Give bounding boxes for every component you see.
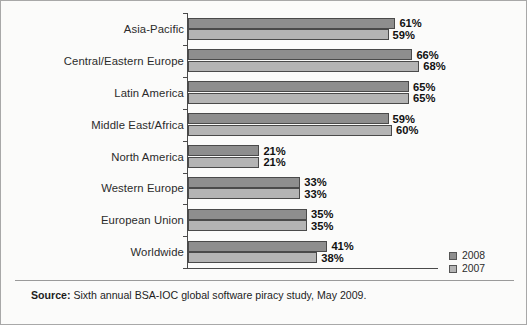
source-label: Source: xyxy=(31,289,70,301)
bar-row: 65% xyxy=(188,93,435,104)
category-label: Latin America xyxy=(27,87,184,99)
bar-row: 33% xyxy=(188,177,327,188)
bar-group: Latin America65%65% xyxy=(27,77,497,109)
bars-container: 65%65% xyxy=(188,77,497,109)
bar xyxy=(188,220,307,231)
bar-value-label: 59% xyxy=(393,113,415,125)
bar-value-label: 38% xyxy=(321,252,343,264)
x-axis-baseline xyxy=(187,268,438,269)
bar-value-label: 35% xyxy=(311,220,333,232)
bar-value-label: 65% xyxy=(413,81,435,93)
bar xyxy=(188,125,392,136)
legend-label: 2007 xyxy=(462,263,485,274)
bar-row: 35% xyxy=(188,209,333,220)
bar-group: European Union35%35% xyxy=(27,204,497,236)
bar xyxy=(188,81,409,92)
bar-value-label: 21% xyxy=(263,145,285,157)
bar-group: Worldwide41%38% xyxy=(27,236,497,268)
bar xyxy=(188,188,300,199)
legend-label: 2008 xyxy=(462,250,485,261)
bar-value-label: 35% xyxy=(311,208,333,220)
bar-row: 60% xyxy=(188,125,418,136)
bar xyxy=(188,49,412,60)
bar-value-label: 66% xyxy=(416,49,438,61)
bar-value-label: 68% xyxy=(423,60,445,72)
bar-value-label: 21% xyxy=(263,156,285,168)
bar-row: 65% xyxy=(188,81,435,92)
category-label: Central/Eastern Europe xyxy=(27,55,184,67)
bar-row: 21% xyxy=(188,145,286,156)
bar-row: 59% xyxy=(188,29,415,40)
category-label: European Union xyxy=(27,214,184,226)
bar-groups: Asia-Pacific61%59%Central/Eastern Europe… xyxy=(27,13,497,268)
bar-row: 61% xyxy=(188,18,422,29)
legend-swatch xyxy=(449,252,457,260)
bars-container: 21%21% xyxy=(188,141,497,173)
bar xyxy=(188,157,259,168)
bar-value-label: 33% xyxy=(304,188,326,200)
bar-value-label: 65% xyxy=(413,92,435,104)
bar-row: 68% xyxy=(188,61,446,72)
category-label: Asia-Pacific xyxy=(27,23,184,35)
bars-container: 61%59% xyxy=(188,13,497,45)
bar xyxy=(188,177,300,188)
plot-area: Asia-Pacific61%59%Central/Eastern Europe… xyxy=(27,13,497,271)
bar-row: 66% xyxy=(188,49,439,60)
bar-group: Western Europe33%33% xyxy=(27,172,497,204)
bar-group: Central/Eastern Europe66%68% xyxy=(27,45,497,77)
bar-row: 59% xyxy=(188,113,415,124)
bar-value-label: 61% xyxy=(399,17,421,29)
chart-legend: 20082007 xyxy=(449,249,485,275)
category-label: North America xyxy=(27,150,184,162)
bar-group: North America21%21% xyxy=(27,141,497,173)
bar xyxy=(188,93,409,104)
bar xyxy=(188,241,327,252)
category-label: Western Europe xyxy=(27,182,184,194)
legend-item: 2008 xyxy=(449,249,485,262)
bar xyxy=(188,252,317,263)
source-note: Source: Sixth annual BSA-IOC global soft… xyxy=(31,289,366,301)
bar-value-label: 33% xyxy=(304,176,326,188)
bar-row: 38% xyxy=(188,252,344,263)
bar-group: Middle East/Africa59%60% xyxy=(27,109,497,141)
bar xyxy=(188,145,259,156)
bar xyxy=(188,209,307,220)
category-label: Worldwide xyxy=(27,246,184,258)
bar xyxy=(188,18,395,29)
legend-swatch xyxy=(449,265,457,273)
source-text: Sixth annual BSA-IOC global software pir… xyxy=(70,289,366,301)
bar xyxy=(188,29,389,40)
legend-item: 2007 xyxy=(449,262,485,275)
bar-value-label: 59% xyxy=(393,29,415,41)
bar-row: 33% xyxy=(188,188,327,199)
bar-group: Asia-Pacific61%59% xyxy=(27,13,497,45)
category-label: Middle East/Africa xyxy=(27,118,184,130)
bars-container: 59%60% xyxy=(188,109,497,141)
bar-row: 21% xyxy=(188,157,286,168)
bars-container: 35%35% xyxy=(188,204,497,236)
bar-row: 35% xyxy=(188,220,333,231)
bars-container: 66%68% xyxy=(188,45,497,77)
bar-row: 41% xyxy=(188,241,354,252)
chart-figure: Asia-Pacific61%59%Central/Eastern Europe… xyxy=(0,0,527,325)
bar-value-label: 41% xyxy=(331,240,353,252)
bar xyxy=(188,113,389,124)
bars-container: 33%33% xyxy=(188,172,497,204)
bar xyxy=(188,61,419,72)
source-divider xyxy=(15,280,514,281)
bar-value-label: 60% xyxy=(396,124,418,136)
